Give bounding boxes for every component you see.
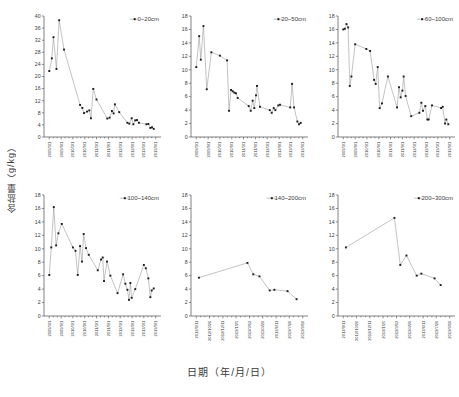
figure-x-axis-label: 日期（年/月/日） — [0, 364, 459, 379]
svg-text:6: 6 — [332, 93, 335, 99]
svg-text:2013/4/26: 2013/4/26 — [260, 320, 265, 339]
svg-text:6: 6 — [38, 272, 41, 278]
svg-text:2013/9/1: 2013/9/1 — [447, 141, 452, 158]
svg-text:2011/9/1: 2011/9/1 — [106, 141, 111, 157]
svg-text:16: 16 — [35, 205, 41, 211]
svg-text:2010/3/1: 2010/3/1 — [217, 141, 222, 158]
svg-text:2012/3/1: 2012/3/1 — [118, 320, 123, 337]
svg-text:2013/9/1: 2013/9/1 — [153, 320, 158, 337]
svg-text:10: 10 — [329, 246, 335, 252]
svg-text:8: 8 — [332, 259, 335, 265]
svg-text:2012/9/1: 2012/9/1 — [277, 141, 282, 158]
svg-text:14: 14 — [182, 219, 188, 225]
svg-text:8: 8 — [38, 110, 41, 116]
svg-text:2011/9/1: 2011/9/1 — [400, 141, 405, 157]
svg-text:2011/3/1: 2011/3/1 — [388, 141, 393, 157]
svg-text:8: 8 — [185, 80, 188, 86]
svg-text:2009/9/1: 2009/9/1 — [59, 320, 64, 337]
svg-text:8: 8 — [332, 80, 335, 86]
svg-text:2: 2 — [332, 299, 335, 305]
svg-text:2012/9/11: 2012/9/11 — [341, 320, 346, 339]
svg-text:2: 2 — [185, 120, 188, 126]
panel-140-200cm: 0246810121416182012/9/112012/10/262012/1… — [165, 183, 312, 362]
svg-text:2010/9/1: 2010/9/1 — [82, 320, 87, 337]
svg-text:2009/3/1: 2009/3/1 — [341, 141, 346, 158]
svg-text:2013/1/25: 2013/1/25 — [381, 320, 386, 339]
svg-text:2013/3/12: 2013/3/12 — [247, 320, 252, 339]
svg-text:12: 12 — [35, 98, 41, 104]
svg-text:4: 4 — [332, 286, 335, 292]
svg-text:14: 14 — [329, 40, 335, 46]
svg-text:12: 12 — [35, 232, 41, 238]
svg-text:4: 4 — [38, 286, 41, 292]
svg-text:2009/9/1: 2009/9/1 — [59, 141, 64, 158]
svg-text:2011/3/1: 2011/3/1 — [94, 320, 99, 336]
svg-text:18: 18 — [182, 13, 188, 19]
svg-text:32: 32 — [35, 37, 41, 43]
svg-text:18: 18 — [35, 192, 41, 198]
panel-200-300cm: 0246810121416182012/9/112012/10/262012/1… — [312, 183, 459, 362]
svg-text:0: 0 — [185, 313, 188, 319]
svg-text:100~140cm: 100~140cm — [127, 195, 159, 201]
svg-text:2013/3/1: 2013/3/1 — [435, 141, 440, 158]
svg-text:2013/7/26: 2013/7/26 — [434, 320, 439, 339]
svg-text:12: 12 — [329, 232, 335, 238]
svg-text:0: 0 — [38, 134, 41, 140]
svg-text:16: 16 — [182, 26, 188, 32]
svg-text:24: 24 — [35, 61, 41, 67]
svg-text:4: 4 — [185, 286, 188, 292]
svg-text:2012/12/11: 2012/12/11 — [367, 320, 372, 341]
svg-text:8: 8 — [185, 259, 188, 265]
svg-text:10: 10 — [329, 67, 335, 73]
figure-y-axis-label: 含盐量（g/kg） — [2, 118, 18, 238]
svg-text:2013/3/1: 2013/3/1 — [141, 141, 146, 158]
svg-text:2013/6/11: 2013/6/11 — [421, 320, 426, 339]
svg-text:0: 0 — [185, 134, 188, 140]
svg-text:140~200cm: 140~200cm — [274, 195, 306, 201]
svg-text:36: 36 — [35, 25, 41, 31]
svg-text:2013/9/10: 2013/9/10 — [300, 320, 305, 339]
svg-text:2010/9/1: 2010/9/1 — [376, 141, 381, 158]
svg-text:2011/9/1: 2011/9/1 — [106, 320, 111, 336]
svg-text:2013/4/26: 2013/4/26 — [407, 320, 412, 339]
svg-text:2013/9/1: 2013/9/1 — [153, 141, 158, 158]
svg-text:0~20cm: 0~20cm — [137, 16, 159, 22]
salinity-depth-figure: 含盐量（g/kg） 04812162024283236402009/3/1200… — [0, 0, 459, 397]
panel-0-20cm: 04812162024283236402009/3/12009/9/12010/… — [18, 4, 165, 183]
svg-text:2010/3/1: 2010/3/1 — [70, 320, 75, 337]
svg-text:14: 14 — [35, 219, 41, 225]
svg-text:10: 10 — [182, 246, 188, 252]
panel-grid: 04812162024283236402009/3/12009/9/12010/… — [18, 4, 459, 362]
panel-20-50cm: 0246810121416182009/3/12009/9/12010/3/12… — [165, 4, 312, 183]
svg-text:12: 12 — [182, 53, 188, 59]
svg-text:16: 16 — [329, 26, 335, 32]
svg-text:2011/9/1: 2011/9/1 — [253, 141, 258, 157]
svg-text:8: 8 — [38, 259, 41, 265]
svg-text:2013/9/10: 2013/9/10 — [447, 320, 452, 339]
svg-text:0: 0 — [332, 313, 335, 319]
svg-text:2012/9/1: 2012/9/1 — [130, 320, 135, 337]
svg-text:4: 4 — [332, 107, 335, 113]
svg-text:2013/3/12: 2013/3/12 — [394, 320, 399, 339]
svg-text:2012/12/11: 2012/12/11 — [220, 320, 225, 341]
svg-text:2009/3/1: 2009/3/1 — [194, 141, 199, 158]
panel-60-100cm: 0246810121416182009/3/12009/9/12010/3/12… — [312, 4, 459, 183]
svg-text:2010/3/1: 2010/3/1 — [70, 141, 75, 158]
svg-text:200~300cm: 200~300cm — [421, 195, 453, 201]
svg-text:2009/3/1: 2009/3/1 — [47, 141, 52, 158]
svg-text:20~50cm: 20~50cm — [281, 16, 306, 22]
panel-100-140cm: 0246810121416182009/3/12009/9/12010/3/12… — [18, 183, 165, 362]
svg-text:6: 6 — [332, 272, 335, 278]
svg-text:18: 18 — [182, 192, 188, 198]
svg-text:18: 18 — [329, 13, 335, 19]
svg-text:18: 18 — [329, 192, 335, 198]
svg-text:2012/9/11: 2012/9/11 — [194, 320, 199, 339]
svg-text:16: 16 — [329, 205, 335, 211]
svg-text:0: 0 — [332, 134, 335, 140]
svg-text:2: 2 — [38, 299, 41, 305]
svg-text:4: 4 — [185, 107, 188, 113]
svg-text:28: 28 — [35, 49, 41, 55]
svg-text:2013/6/11: 2013/6/11 — [274, 320, 279, 339]
svg-text:6: 6 — [185, 93, 188, 99]
svg-text:12: 12 — [329, 53, 335, 59]
